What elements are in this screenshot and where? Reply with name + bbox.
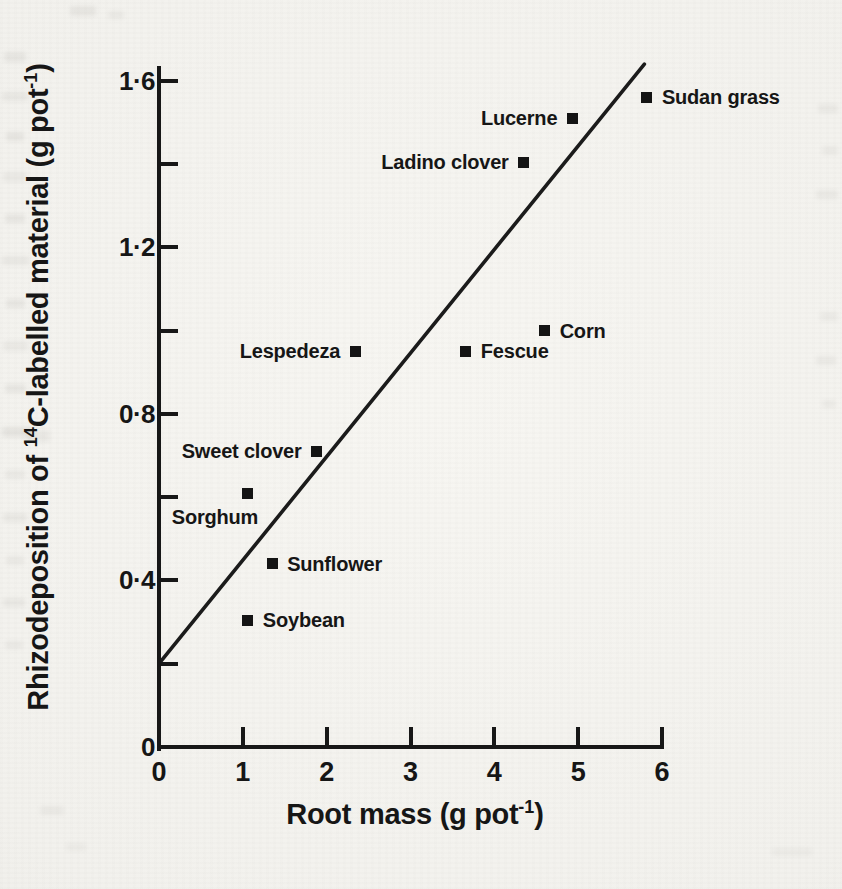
x-tick-5 — [576, 727, 580, 745]
point-label-ladino-clover: Ladino clover — [381, 149, 508, 175]
y-tick-1.4 — [161, 162, 178, 166]
point-label-fescue: Fescue — [481, 338, 549, 364]
data-point-ladino-clover — [518, 157, 529, 168]
point-label-corn: Corn — [560, 318, 606, 344]
point-label-soybean: Soybean — [263, 607, 345, 633]
scan-artifact — [816, 356, 836, 365]
data-point-fescue — [460, 346, 471, 357]
y-tick-1.2 — [161, 245, 178, 249]
superscript: -1 — [518, 797, 534, 817]
x-tick-label-3: 3 — [381, 757, 441, 787]
title-text: Root mass (g pot — [286, 798, 518, 830]
y-axis-title: Rhizodeposition of 14C-labelled material… — [19, 37, 57, 737]
x-tick-label-2: 2 — [297, 757, 357, 787]
point-label-lucerne: Lucerne — [481, 105, 557, 131]
superscript: -1 — [21, 73, 41, 89]
x-tick-6 — [660, 727, 664, 745]
x-tick-label-4: 4 — [464, 757, 524, 787]
data-point-soybean — [242, 615, 253, 626]
y-axis — [157, 66, 161, 751]
data-point-lespedeza — [350, 346, 361, 357]
data-point-sudan-grass — [641, 92, 652, 103]
x-axis — [157, 745, 664, 749]
x-tick-2 — [325, 727, 329, 745]
scan-artifact — [818, 104, 838, 113]
scan-artifact — [820, 312, 838, 321]
x-tick-label-1: 1 — [213, 757, 273, 787]
scan-artifact — [822, 146, 838, 155]
point-label-sweet-clover: Sweet clover — [182, 438, 302, 464]
point-label-sunflower: Sunflower — [287, 551, 382, 577]
x-axis-title: Root mass (g pot-1) — [115, 798, 715, 831]
scan-artifact — [66, 843, 86, 851]
scanned-figure-page: 01234561·61·20·80·40 Sudan grassLucerneL… — [0, 0, 842, 889]
y-tick-1.6 — [161, 79, 178, 83]
x-tick-3 — [409, 727, 413, 745]
scan-artifact — [70, 6, 96, 16]
title-text: Rhizodeposition of — [22, 447, 54, 710]
scan-artifact — [108, 11, 124, 19]
point-label-sudan-grass: Sudan grass — [662, 84, 780, 110]
x-tick-label-6: 6 — [632, 757, 692, 787]
data-point-lucerne — [567, 113, 578, 124]
point-label-sorghum: Sorghum — [172, 504, 258, 530]
y-tick-0.8 — [161, 412, 178, 416]
x-tick-1 — [241, 727, 245, 745]
data-point-sunflower — [267, 558, 278, 569]
scan-artifact — [822, 400, 836, 408]
x-tick-label-5: 5 — [548, 757, 608, 787]
scan-artifact — [40, 806, 64, 815]
data-point-sweet-clover — [311, 446, 322, 457]
y-tick-1 — [161, 329, 178, 333]
data-point-corn — [539, 325, 550, 336]
point-label-lespedeza: Lespedeza — [240, 338, 340, 364]
superscript: 14 — [21, 427, 41, 447]
scan-artifact — [816, 190, 838, 199]
data-point-sorghum — [242, 488, 253, 499]
y-tick-0.2 — [161, 662, 178, 666]
title-text: ) — [22, 63, 54, 72]
title-text: ) — [534, 798, 543, 830]
y-tick-0.4 — [161, 578, 178, 582]
scan-artifact — [772, 848, 812, 856]
y-tick-0.6 — [161, 495, 178, 499]
x-tick-4 — [492, 727, 496, 745]
title-text: C-labelled material (g pot — [22, 89, 54, 428]
